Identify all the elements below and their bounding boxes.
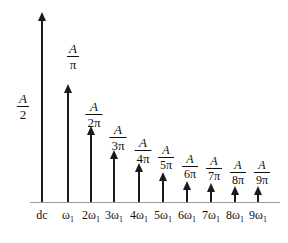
frequency-tick-label-text: 7ω (202, 208, 216, 222)
amplitude-denominator: 3π (109, 139, 126, 152)
amplitude-numerator: A (254, 159, 270, 171)
amplitude-denominator: 8π (230, 174, 246, 186)
spectral-line-stem (90, 134, 92, 202)
amplitude-numerator: A (182, 153, 198, 165)
amplitude-denominator: π (67, 58, 79, 71)
frequency-tick-label: 6ω1 (178, 208, 196, 224)
amplitude-denominator: 4π (134, 152, 151, 165)
frequency-tick-label: 4ω1 (130, 208, 148, 224)
frequency-tick-label: 7ω1 (202, 208, 220, 224)
frequency-tick-label: 3ω1 (105, 208, 123, 224)
amplitude-denominator: 7π (206, 170, 222, 182)
frequency-tick-label-text: dc (36, 208, 47, 222)
arrow-up-icon (207, 183, 215, 192)
frequency-tick-label-subscript: 1 (192, 215, 196, 224)
frequency-tick-label-text: 5ω (154, 208, 168, 222)
dc-amplitude-denominator: 2 (17, 108, 29, 121)
spectral-line-stem (113, 158, 115, 202)
frequency-tick-label-subscript: 1 (240, 215, 244, 224)
amplitude-spectrum-figure: A 2 AπA2πA3πA4πA5πA6πA7πA8πA9π dcω12ω13ω… (0, 0, 288, 243)
frequency-tick-label: ω1 (62, 208, 74, 224)
dc-amplitude-numerator: A (17, 92, 29, 105)
frequency-tick-label-subscript: 1 (96, 215, 100, 224)
frequency-tick-label-subscript: 1 (216, 215, 220, 224)
arrow-up-icon (183, 181, 191, 190)
spectral-line-stem (162, 180, 164, 202)
spectral-line-stem (186, 189, 188, 202)
amplitude-label: A6π (182, 153, 198, 180)
spectral-line-stem (41, 20, 43, 202)
amplitude-label: A5π (158, 144, 174, 171)
amplitude-numerator: A (109, 123, 126, 136)
amplitude-denominator: 6π (182, 168, 198, 180)
frequency-tick-label-text: 6ω (178, 208, 192, 222)
frequency-tick-label-subscript: 1 (263, 215, 267, 224)
frequency-tick-label-text: 9ω (249, 208, 263, 222)
frequency-tick-label-subscript: 1 (144, 215, 148, 224)
amplitude-denominator: 9π (254, 174, 270, 186)
amplitude-label: A4π (134, 136, 151, 165)
frequency-tick-label: 9ω1 (249, 208, 267, 224)
arrow-up-icon (231, 186, 239, 195)
frequency-tick-label: 2ω1 (82, 208, 100, 224)
frequency-tick-label: 8ω1 (226, 208, 244, 224)
amplitude-denominator: 5π (158, 159, 174, 171)
amplitude-label: Aπ (67, 42, 79, 71)
arrow-up-icon (159, 172, 167, 181)
amplitude-numerator: A (134, 136, 151, 149)
frequency-tick-label-text: 4ω (130, 208, 144, 222)
amplitude-denominator: 2π (85, 116, 102, 129)
frequency-tick-label-subscript: 1 (70, 215, 74, 224)
amplitude-label: A2π (85, 100, 102, 129)
amplitude-numerator: A (67, 42, 79, 55)
spectral-line-stem (138, 171, 140, 202)
spectral-line-stem (257, 194, 259, 202)
amplitude-label: A7π (206, 155, 222, 182)
frequency-tick-label-text: ω (62, 208, 70, 222)
amplitude-numerator: A (158, 144, 174, 156)
amplitude-numerator: A (230, 159, 246, 171)
amplitude-label: A8π (230, 159, 246, 186)
frequency-tick-label-subscript: 1 (119, 215, 123, 224)
frequency-tick-label-text: 8ω (226, 208, 240, 222)
arrow-up-icon (64, 84, 72, 93)
frequency-tick-label: dc (36, 208, 47, 223)
spectral-line-stem (234, 194, 236, 202)
amplitude-label: A9π (254, 159, 270, 186)
arrow-up-icon (254, 186, 262, 195)
dc-amplitude-label: A 2 (17, 92, 29, 122)
spectral-line-stem (67, 92, 69, 202)
amplitude-label: A3π (109, 123, 126, 152)
frequency-tick-label-subscript: 1 (168, 215, 172, 224)
amplitude-numerator: A (85, 100, 102, 113)
arrow-up-icon (38, 12, 46, 21)
frequency-tick-label: 5ω1 (154, 208, 172, 224)
frequency-tick-label-text: 2ω (82, 208, 96, 222)
dc-amplitude-fraction: A 2 (17, 92, 29, 121)
spectral-line-stem (210, 191, 212, 202)
frequency-axis (30, 202, 280, 203)
frequency-tick-label-text: 3ω (105, 208, 119, 222)
amplitude-numerator: A (206, 155, 222, 167)
